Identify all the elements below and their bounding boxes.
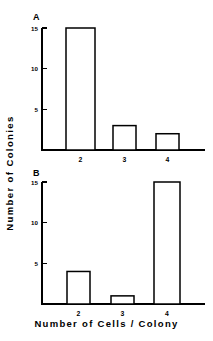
panel-b-xtick-2: 2	[77, 310, 81, 317]
panel-b: B 5 10 15 2 3 4	[0, 168, 213, 318]
panel-a-ytick-5: 5	[35, 106, 39, 113]
panel-a-xtick-3: 3	[123, 156, 127, 163]
panel-a-xtick-4: 4	[166, 156, 170, 163]
panel-a-ytick-10: 10	[31, 65, 38, 72]
panel-a-xtick-2: 2	[79, 156, 83, 163]
panel-b-bar-4	[154, 182, 180, 304]
panel-b-ytick-10: 10	[31, 219, 38, 226]
panel-b-bar-2	[67, 271, 90, 304]
panel-a-bar-2	[66, 28, 95, 150]
panel-b-bar-3	[111, 296, 134, 304]
panel-b-xtick-4: 4	[165, 310, 169, 317]
panel-a-bar-4	[156, 134, 179, 150]
panel-a-plot: 5 10 15 2 3 4	[0, 10, 213, 168]
panel-b-plot: 5 10 15 2 3 4	[0, 168, 213, 318]
panel-a-bar-3	[113, 126, 136, 150]
panel-a-ytick-15: 15	[31, 25, 38, 32]
panel-b-xtick-3: 3	[121, 310, 125, 317]
panel-b-ytick-15: 15	[31, 179, 38, 186]
x-axis-title: Number of Cells / Colony	[0, 318, 213, 329]
figure-bar-charts: Number of Colonies A 5 10 15 2 3 4	[0, 0, 213, 341]
panel-a: A 5 10 15 2 3 4	[0, 10, 213, 168]
panel-b-ytick-5: 5	[35, 260, 39, 267]
